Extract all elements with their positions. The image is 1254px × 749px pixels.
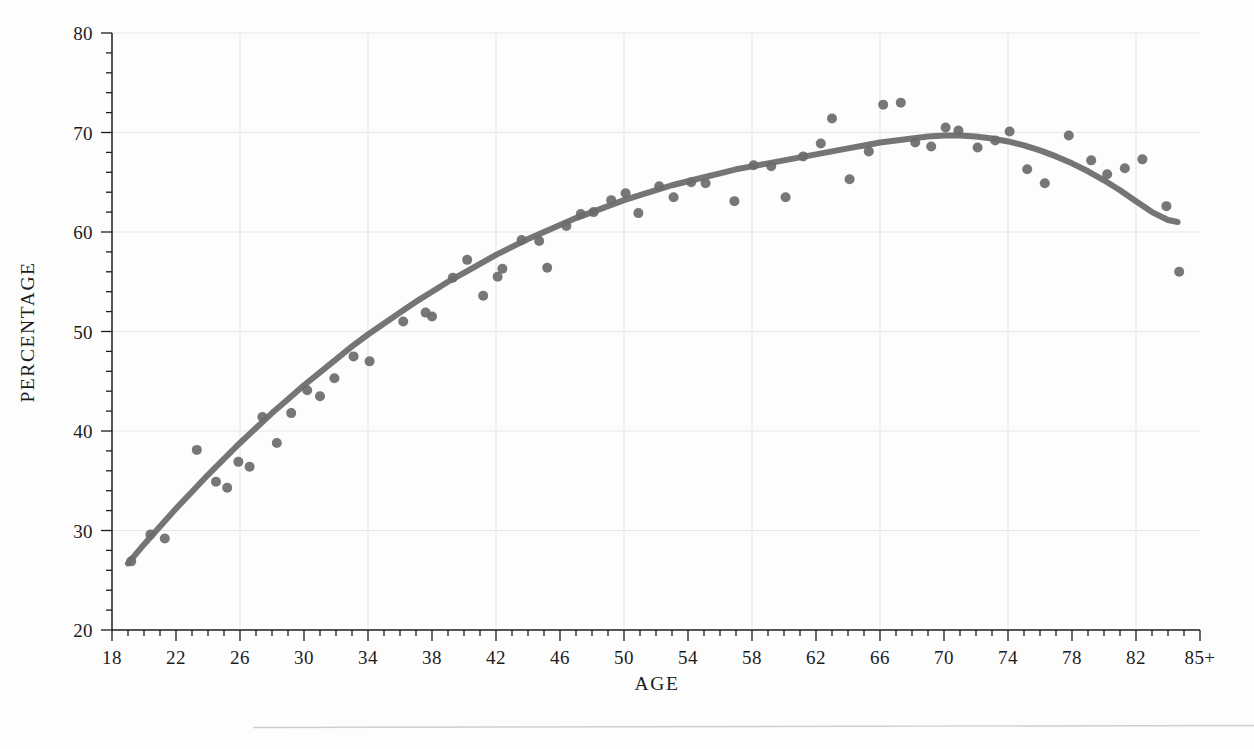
x-tick-label: 58: [742, 647, 762, 668]
data-point: [497, 264, 507, 274]
data-point: [245, 462, 255, 472]
data-point: [302, 385, 312, 395]
data-point: [878, 100, 888, 110]
x-tick-label: 74: [998, 647, 1018, 668]
x-axis-title: AGE: [635, 673, 680, 694]
data-point: [534, 236, 544, 246]
x-tick-label: 26: [230, 647, 250, 668]
data-point: [686, 177, 696, 187]
x-tick-label: 34: [358, 647, 378, 668]
data-point: [816, 138, 826, 148]
y-tick-label: 70: [73, 123, 93, 144]
data-point: [729, 196, 739, 206]
data-point: [329, 373, 339, 383]
data-point: [233, 457, 243, 467]
x-tick-label: 22: [166, 647, 186, 668]
data-point: [145, 529, 155, 539]
y-tick-label: 30: [73, 521, 93, 542]
data-point: [398, 317, 408, 327]
data-point: [845, 174, 855, 184]
x-tick-label: 82: [1126, 647, 1146, 668]
data-point: [257, 412, 267, 422]
y-tick-label: 20: [73, 620, 93, 641]
x-tick-label: 54: [678, 647, 698, 668]
data-point: [365, 356, 375, 366]
data-point: [633, 208, 643, 218]
y-tick-label: 60: [73, 222, 93, 243]
x-tick-label: 50: [614, 647, 634, 668]
data-point: [462, 255, 472, 265]
data-point: [286, 408, 296, 418]
data-point: [1086, 155, 1096, 165]
plot-background: [0, 0, 1254, 749]
data-point: [827, 114, 837, 124]
data-point: [953, 126, 963, 136]
data-point: [1022, 164, 1032, 174]
data-point: [973, 142, 983, 152]
data-point: [1174, 267, 1184, 277]
data-point: [589, 207, 599, 217]
data-point: [864, 146, 874, 156]
data-point: [781, 192, 791, 202]
data-point: [272, 438, 282, 448]
data-point: [701, 178, 711, 188]
data-point: [766, 161, 776, 171]
scatter-plot-canvas: 182226303438424650545862667074788285+ 20…: [0, 0, 1254, 749]
y-axis-title: PERCENTAGE: [17, 261, 38, 402]
data-point: [192, 445, 202, 455]
x-tick-label: 18: [102, 647, 122, 668]
data-point: [160, 533, 170, 543]
data-point: [427, 312, 437, 322]
data-point: [990, 135, 1000, 145]
chart-figure: 182226303438424650545862667074788285+ 20…: [0, 0, 1254, 749]
x-tick-label: 78: [1062, 647, 1082, 668]
x-tick-label: 66: [870, 647, 890, 668]
data-point: [941, 123, 951, 133]
data-point: [1120, 163, 1130, 173]
data-point: [448, 273, 458, 283]
data-point: [478, 291, 488, 301]
data-point: [349, 351, 359, 361]
data-point: [542, 263, 552, 273]
x-tick-label: 70: [934, 647, 954, 668]
data-point: [606, 195, 616, 205]
data-point: [561, 221, 571, 231]
data-point: [222, 483, 232, 493]
data-point: [1064, 130, 1074, 140]
data-point: [749, 160, 759, 170]
data-point: [517, 235, 527, 245]
data-point: [654, 181, 664, 191]
x-tick-label: 30: [294, 647, 314, 668]
data-point: [896, 98, 906, 108]
data-point: [1040, 178, 1050, 188]
data-point: [211, 477, 221, 487]
data-point: [798, 151, 808, 161]
y-tick-label: 50: [73, 322, 93, 343]
x-tick-label: 62: [806, 647, 826, 668]
data-point: [910, 137, 920, 147]
x-tick-label: 85+: [1185, 647, 1216, 668]
x-tick-label: 38: [422, 647, 442, 668]
data-point: [1005, 127, 1015, 137]
data-point: [315, 391, 325, 401]
data-point: [1161, 201, 1171, 211]
y-tick-label: 40: [73, 421, 93, 442]
data-point: [926, 141, 936, 151]
data-point: [126, 556, 136, 566]
data-point: [621, 188, 631, 198]
x-tick-label: 46: [550, 647, 570, 668]
data-point: [1137, 154, 1147, 164]
data-point: [576, 209, 586, 219]
x-tick-label: 42: [486, 647, 506, 668]
data-point: [669, 192, 679, 202]
y-tick-label: 80: [73, 23, 93, 44]
data-point: [1102, 169, 1112, 179]
